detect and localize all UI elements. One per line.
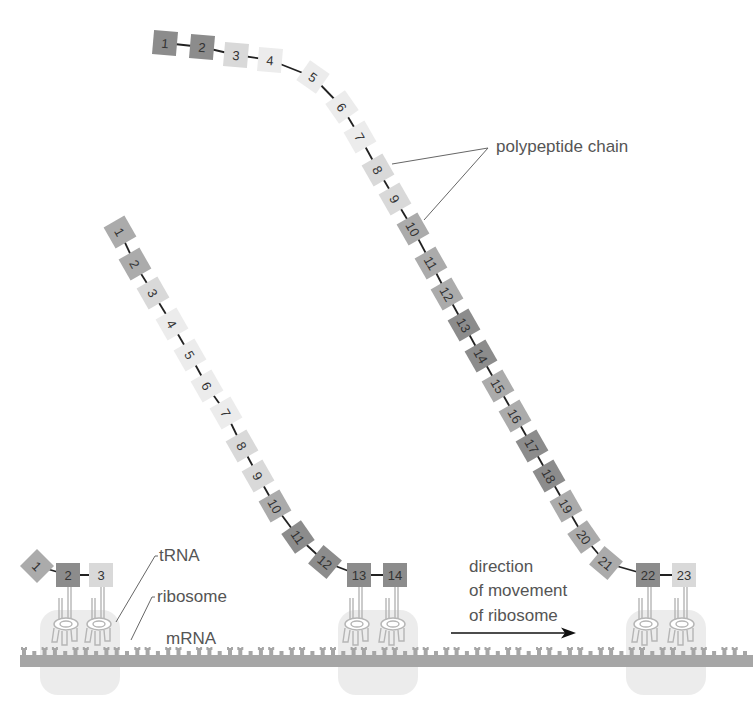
amino-acid: 4 bbox=[257, 47, 283, 73]
label-ribosome: ribosome bbox=[157, 586, 227, 607]
amino-acid: 3 bbox=[89, 563, 113, 587]
polysome-diagram: 1231234567891011121314123456789101112131… bbox=[0, 0, 753, 701]
amino-acid: 3 bbox=[223, 42, 249, 68]
amino-acid: 1 bbox=[152, 30, 178, 56]
amino-acid: 13 bbox=[347, 563, 371, 587]
amino-acid: 2 bbox=[189, 34, 215, 60]
label-direction-2: of movement bbox=[469, 580, 567, 601]
direction-arrow bbox=[451, 628, 576, 639]
amino-acid: 14 bbox=[383, 563, 407, 587]
label-direction-1: direction bbox=[469, 556, 533, 577]
label-polypeptide-chain: polypeptide chain bbox=[496, 136, 628, 157]
leader-polypeptide-b bbox=[424, 148, 488, 220]
diagram-canvas bbox=[0, 0, 753, 701]
leader-ribosome bbox=[131, 597, 152, 640]
leader-trna bbox=[116, 556, 155, 622]
label-trna: tRNA bbox=[159, 545, 200, 566]
leader-lines bbox=[116, 148, 488, 640]
amino-acid: 22 bbox=[636, 563, 660, 587]
label-mrna: mRNA bbox=[166, 628, 216, 649]
mrna-strand bbox=[20, 647, 753, 667]
amino-acid: 2 bbox=[56, 563, 80, 587]
amino-acid: 23 bbox=[672, 563, 696, 587]
label-direction-3: of ribosome bbox=[469, 605, 558, 626]
leader-polypeptide-a bbox=[392, 148, 488, 164]
